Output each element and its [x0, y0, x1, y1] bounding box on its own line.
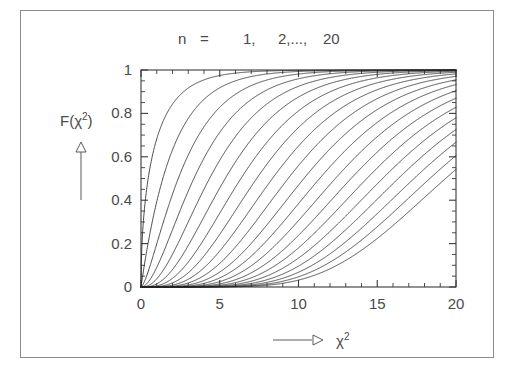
y-tick-label: 0.8 — [111, 104, 132, 121]
axis-tick-labels: 0510152000.20.40.60.81 — [111, 61, 464, 312]
x-axis-arrow — [273, 335, 323, 345]
cdf-curve — [141, 85, 456, 287]
cdf-curve — [141, 142, 456, 287]
y-tick-label: 0 — [124, 278, 132, 295]
x-tick-label: 10 — [290, 295, 307, 312]
title-middle-n: 2,..., — [278, 30, 307, 47]
x-title-chi: χ — [336, 332, 344, 349]
title-variable: n — [178, 30, 186, 47]
cdf-curve — [141, 98, 456, 287]
cdf-curve — [141, 107, 456, 287]
y-axis-title: F(χ2) — [60, 111, 93, 129]
x-title-exp: 2 — [344, 331, 350, 342]
x-axis-title-text: χ2 — [336, 331, 350, 349]
cdf-curve — [141, 72, 456, 287]
title-first-n: 1, — [243, 30, 256, 47]
chart-svg: n = 1, 2,..., 20 F(χ2) χ2 — [0, 0, 513, 378]
y-title-close: ) — [88, 112, 93, 129]
y-axis-arrow — [76, 142, 86, 200]
x-axis-title: χ2 — [336, 331, 350, 349]
figure-canvas: n = 1, 2,..., 20 F(χ2) χ2 — [0, 0, 513, 378]
cdf-curve — [141, 76, 456, 287]
y-title-f: F( — [60, 112, 74, 129]
cdf-curve — [141, 74, 456, 287]
y-tick-label: 0.6 — [111, 148, 132, 165]
x-tick-label: 20 — [448, 295, 465, 312]
title-equals: = — [200, 30, 209, 47]
cdf-curve — [141, 169, 456, 287]
y-tick-label: 0.2 — [111, 235, 132, 252]
chi-squared-cdf-curves — [141, 70, 456, 287]
x-tick-label: 0 — [137, 295, 145, 312]
cdf-curve — [141, 71, 456, 287]
title-last-n: 20 — [323, 30, 340, 47]
y-tick-label: 0.4 — [111, 191, 132, 208]
y-tick-label: 1 — [124, 61, 132, 78]
x-tick-label: 5 — [216, 295, 224, 312]
y-axis-title-text: F(χ2) — [60, 111, 93, 129]
x-tick-label: 15 — [369, 295, 386, 312]
cdf-curve — [141, 71, 456, 287]
y-title-chi: χ — [74, 112, 82, 129]
chart-title: n = 1, 2,..., 20 — [178, 30, 340, 47]
